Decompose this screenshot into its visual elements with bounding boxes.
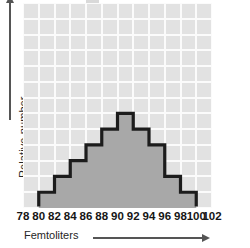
x-axis-tick-labels: 7880828486889092949698100102 xyxy=(0,210,250,226)
x-axis-group: Femtoliters xyxy=(0,229,250,247)
y-axis-arrow-icon xyxy=(9,2,11,120)
chart-plot-area xyxy=(23,3,212,208)
y-axis-group: Relative number xyxy=(0,0,23,210)
x-axis-tick-label: 102 xyxy=(201,210,223,222)
histogram-bars xyxy=(23,3,212,208)
x-axis-title: Femtoliters xyxy=(24,229,78,241)
top-crop-artifact xyxy=(86,0,99,3)
x-axis-arrow-icon xyxy=(93,237,203,239)
